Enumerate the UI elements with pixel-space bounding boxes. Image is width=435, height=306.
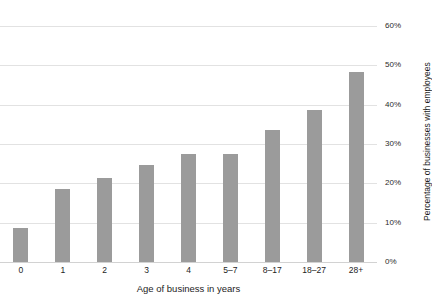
bar [13, 228, 28, 262]
x-tick-label: 4 [186, 265, 191, 275]
x-tick-label: 28+ [349, 265, 363, 275]
x-tick-label: 5–7 [223, 265, 237, 275]
x-tick-label: 8–17 [263, 265, 282, 275]
x-tick-label: 1 [60, 265, 65, 275]
y-tick-label: 60% [385, 22, 415, 30]
bar [139, 165, 154, 262]
bar [307, 110, 322, 262]
bars-series [0, 26, 377, 262]
bar [97, 178, 112, 262]
x-tick-label: 3 [144, 265, 149, 275]
bar [223, 154, 238, 262]
plot-area [0, 26, 377, 262]
bar [265, 130, 280, 262]
y-tick-label: 20% [385, 179, 415, 187]
bar [181, 154, 196, 262]
y-tick-label: 40% [385, 101, 415, 109]
bar [349, 72, 364, 262]
bar-chart: 0%10%20%30%40%50%60% Percentage of busin… [0, 0, 435, 306]
x-tick-label: 2 [102, 265, 107, 275]
y-tick-label: 50% [385, 61, 415, 69]
bar [55, 189, 70, 262]
y-tick-label: 30% [385, 140, 415, 148]
y-tick-label: 10% [385, 219, 415, 227]
gridline-0 [0, 262, 377, 263]
x-axis-title: Age of business in years [0, 283, 377, 295]
y-axis-title: Percentage of businesses with employees [421, 22, 433, 262]
x-tick-label: 0 [19, 265, 24, 275]
y-tick-label: 0% [385, 258, 415, 266]
x-axis-tick-labels: 012345–78–1718–2728+ [0, 265, 377, 279]
x-tick-label: 18–27 [302, 265, 326, 275]
